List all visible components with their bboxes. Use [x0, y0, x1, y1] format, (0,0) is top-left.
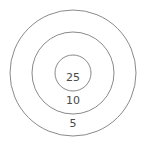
- middle-ring-label: 10: [66, 94, 80, 107]
- outer-ring-label: 5: [70, 117, 77, 130]
- target-diagram: 25 10 5: [0, 0, 146, 142]
- inner-ring-label: 25: [66, 71, 80, 84]
